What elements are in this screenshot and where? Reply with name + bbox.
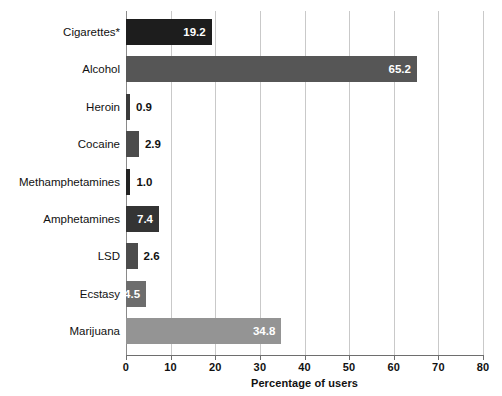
bar-value-label: 4.5 <box>124 281 140 307</box>
bar-heroin <box>126 94 130 120</box>
bar-row: Cigarettes* 19.2 <box>0 19 502 45</box>
x-tick-label: 40 <box>285 361 325 373</box>
x-tick-label: 70 <box>418 361 458 373</box>
x-tick <box>438 355 439 360</box>
bar-value-label: 34.8 <box>253 318 275 344</box>
bar-row: Alcohol 65.2 <box>0 56 502 82</box>
category-label: Marijuana <box>0 318 120 344</box>
bar-cigarettes: 19.2 <box>126 19 212 45</box>
x-tick-label: 60 <box>374 361 414 373</box>
bar-alcohol: 65.2 <box>126 56 417 82</box>
x-tick-label: 30 <box>240 361 280 373</box>
bar-ecstasy: 4.5 <box>126 281 146 307</box>
bar-row: Heroin 0.9 <box>0 94 502 120</box>
bar-value-label: 2.9 <box>145 131 161 157</box>
bar-value-label: 65.2 <box>389 56 411 82</box>
category-label: Heroin <box>0 94 120 120</box>
x-tick <box>305 355 306 360</box>
bar-value-label: 2.6 <box>144 243 160 269</box>
category-label: LSD <box>0 243 120 269</box>
bar-row: LSD 2.6 <box>0 243 502 269</box>
bar-cocaine <box>126 131 139 157</box>
bar-value-label: 0.9 <box>136 94 152 120</box>
x-tick <box>349 355 350 360</box>
x-tick <box>394 355 395 360</box>
bar-value-label: 19.2 <box>183 19 205 45</box>
category-label: Cigarettes* <box>0 19 120 45</box>
bar-chart: Cigarettes* 19.2 Alcohol 65.2 Heroin 0.9… <box>0 0 502 396</box>
bar-marijuana: 34.8 <box>126 318 281 344</box>
x-tick <box>126 355 127 360</box>
x-axis-title: Percentage of users <box>126 377 483 389</box>
bar-row: Ecstasy 4.5 <box>0 281 502 307</box>
x-tick-label: 80 <box>463 361 502 373</box>
category-label: Alcohol <box>0 56 120 82</box>
bar-row: Amphetamines 7.4 <box>0 206 502 232</box>
bar-methamphetamines <box>126 169 130 195</box>
bar-row: Cocaine 2.9 <box>0 131 502 157</box>
category-label: Cocaine <box>0 131 120 157</box>
bar-value-label: 7.4 <box>137 206 153 232</box>
x-tick-label: 20 <box>195 361 235 373</box>
bar-row: Methamphetamines 1.0 <box>0 169 502 195</box>
bar-amphetamines: 7.4 <box>126 206 159 232</box>
bar-value-label: 1.0 <box>136 169 152 195</box>
bar-lsd <box>126 243 138 269</box>
x-tick <box>215 355 216 360</box>
bar-row: Marijuana 34.8 <box>0 318 502 344</box>
x-tick <box>171 355 172 360</box>
category-label: Amphetamines <box>0 206 120 232</box>
x-tick-label: 0 <box>106 361 146 373</box>
x-tick-label: 10 <box>151 361 191 373</box>
x-tick <box>483 355 484 360</box>
category-label: Ecstasy <box>0 281 120 307</box>
x-tick-label: 50 <box>329 361 369 373</box>
category-label: Methamphetamines <box>0 169 120 195</box>
x-tick <box>260 355 261 360</box>
